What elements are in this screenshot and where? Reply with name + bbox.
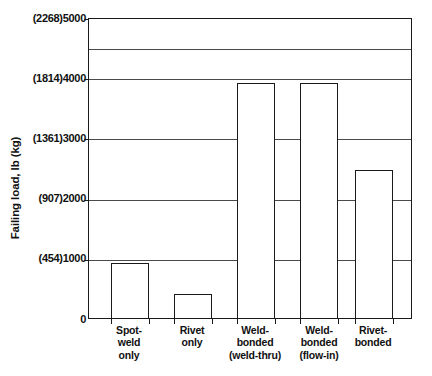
y-axis-tick-labels: (2268)5000 (1814)4000 (1361)3000 (907)20… (16, 0, 86, 376)
y-tick-label-2000: (907)2000 (16, 193, 86, 204)
y-tick-label-3000: (1361)3000 (16, 133, 86, 144)
y-tick-label-0: 0 (16, 314, 86, 325)
x-cat-label-line: bonded (337, 336, 409, 348)
bar-chart: Failing load, lb (kg) (2268)5000 (1814)4… (0, 0, 432, 376)
x-axis-category-labels: Spot- weld only Rivet only Weld- bonded … (88, 322, 412, 376)
bar-weld-bonded-weld-thru (237, 83, 275, 318)
plot-area (88, 18, 412, 319)
x-cat-label-line: weld (94, 336, 164, 348)
x-cat-label-line: Rivet- (337, 324, 409, 336)
x-cat-label-line: only (94, 349, 164, 361)
y-tick-label-1000: (454)1000 (16, 253, 86, 264)
bar-spot-weld-only (111, 263, 149, 318)
x-cat-label-line: Spot- (94, 324, 164, 336)
y-tick-label-4000: (1814)4000 (16, 73, 86, 84)
bar-weld-bonded-flow-in (300, 83, 338, 318)
y-tick-label-5000: (2268)5000 (16, 13, 86, 24)
x-cat-label-rivet-bonded: Rivet- bonded (337, 324, 409, 349)
x-cat-label-spot-weld-only: Spot- weld only (94, 324, 164, 361)
x-cat-label-line: (flow-in) (281, 349, 357, 361)
bar-rivet-only (174, 294, 212, 318)
bar-rivet-bonded (355, 170, 393, 318)
bars-layer (89, 19, 411, 318)
